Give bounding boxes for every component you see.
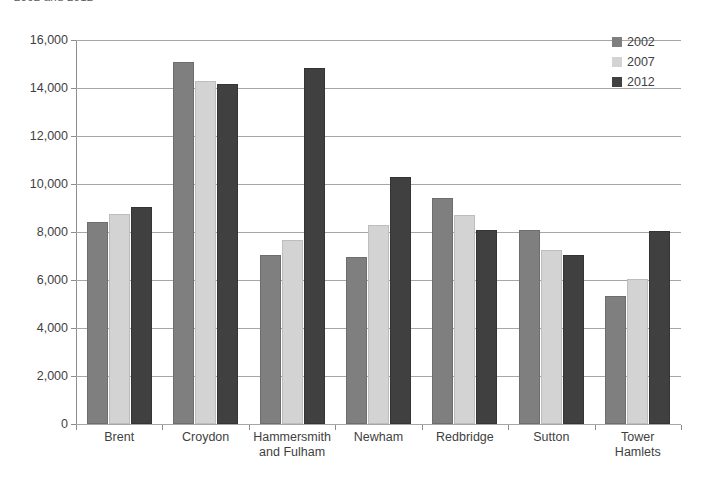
y-axis-tick-label: 14,000 — [30, 81, 68, 95]
y-axis-labels: 16,00014,00012,00010,0008,0006,0004,0002… — [0, 40, 68, 425]
x-axis-category-label: Brent — [104, 430, 134, 445]
bar-redbridge-2002 — [432, 198, 453, 424]
gridline — [76, 424, 681, 425]
bar-brent-2012 — [131, 207, 152, 424]
y-axis-tick-label: 0 — [61, 417, 68, 431]
legend-label: 2007 — [627, 56, 655, 69]
bar-croydon-2002 — [173, 62, 194, 424]
y-axis-tick-label: 12,000 — [30, 129, 68, 143]
legend-item-2012: 2012 — [612, 73, 692, 91]
bar-tower-hamlets-2012 — [649, 231, 670, 424]
y-axis-tick — [71, 184, 76, 185]
legend-swatch-icon — [612, 57, 622, 67]
y-axis-tick-label: 2,000 — [37, 369, 68, 383]
bar-tower-hamlets-2007 — [627, 279, 648, 424]
bar-hammersmith-and-fulham-2007 — [282, 240, 303, 424]
y-axis-tick — [71, 40, 76, 41]
y-axis-tick — [71, 328, 76, 329]
y-axis-tick — [71, 232, 76, 233]
bar-group — [432, 40, 497, 424]
x-axis-category-label: Croydon — [182, 430, 229, 445]
bar-chart: 2002 and 2012 16,00014,00012,00010,0008,… — [0, 0, 704, 482]
y-axis-tick — [71, 88, 76, 89]
bar-group — [87, 40, 152, 424]
bar-redbridge-2012 — [476, 230, 497, 424]
bar-hammersmith-and-fulham-2002 — [260, 255, 281, 424]
legend-label: 2012 — [627, 76, 655, 89]
bar-newham-2002 — [346, 257, 367, 424]
bar-hammersmith-and-fulham-2012 — [304, 68, 325, 424]
x-axis-category-label: Newham — [354, 430, 403, 445]
bar-croydon-2007 — [195, 81, 216, 424]
y-axis-tick-label: 10,000 — [30, 177, 68, 191]
bar-sutton-2002 — [519, 230, 540, 424]
x-axis-category-label: Hammersmith and Fulham — [253, 430, 331, 460]
chart-title: 2002 and 2012 — [14, 0, 93, 3]
chart-legend: 200220072012 — [612, 33, 692, 93]
bar-croydon-2012 — [217, 84, 238, 424]
x-axis-category-label: Tower Hamlets — [615, 430, 661, 460]
plot-area — [76, 40, 681, 425]
bar-brent-2007 — [109, 214, 130, 424]
bar-sutton-2007 — [541, 250, 562, 424]
bar-group — [519, 40, 584, 424]
bar-brent-2002 — [87, 222, 108, 424]
bar-newham-2007 — [368, 225, 389, 424]
bar-group — [605, 40, 670, 424]
bar-sutton-2012 — [563, 255, 584, 424]
x-axis-tick — [681, 425, 682, 430]
bar-group — [346, 40, 411, 424]
legend-swatch-icon — [612, 77, 622, 87]
y-axis-line — [76, 40, 77, 426]
bar-redbridge-2007 — [454, 215, 475, 424]
y-axis-tick-label: 4,000 — [37, 321, 68, 335]
y-axis-tick-label: 6,000 — [37, 273, 68, 287]
bar-group — [260, 40, 325, 424]
legend-label: 2002 — [627, 36, 655, 49]
x-axis-category-label: Redbridge — [436, 430, 494, 445]
bar-tower-hamlets-2002 — [605, 296, 626, 424]
y-axis-tick-label: 16,000 — [30, 33, 68, 47]
x-axis-labels: BrentCroydonHammersmith and FulhamNewham… — [76, 430, 681, 482]
legend-item-2007: 2007 — [612, 53, 692, 71]
y-axis-tick-label: 8,000 — [37, 225, 68, 239]
y-axis-tick — [71, 376, 76, 377]
bar-newham-2012 — [390, 177, 411, 424]
y-axis-tick — [71, 280, 76, 281]
y-axis-tick — [71, 136, 76, 137]
x-axis-category-label: Sutton — [533, 430, 569, 445]
legend-swatch-icon — [612, 37, 622, 47]
legend-item-2002: 2002 — [612, 33, 692, 51]
bar-group — [173, 40, 238, 424]
